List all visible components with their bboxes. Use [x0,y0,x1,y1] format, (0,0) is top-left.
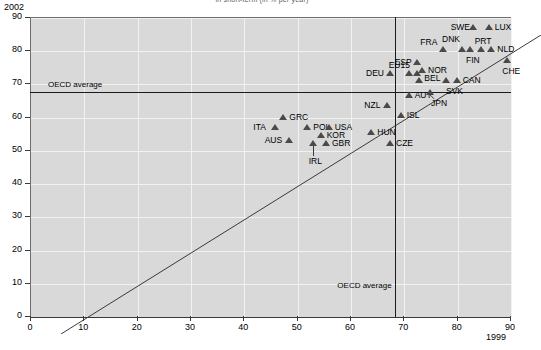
data-point-marker [386,140,394,146]
gridline-vertical [351,18,352,317]
oecd-average-label-horizontal: OECD average [48,80,102,89]
y-axis-tick [25,50,30,51]
x-axis-tick [30,316,31,321]
x-axis-tick-label: 20 [122,323,152,332]
data-point-marker [397,112,405,118]
data-point-marker [413,59,421,65]
x-axis-tick [297,316,298,321]
data-point-label: IRL [309,157,322,166]
data-point-label: ISL [407,111,420,120]
data-point-marker [487,46,495,52]
x-axis-tick-label: 10 [68,323,98,332]
y-axis-tick [25,183,30,184]
x-axis-tick-label: 40 [228,323,258,332]
x-axis-tick-label: 0 [15,323,45,332]
gridline-horizontal [31,284,511,285]
data-point-label: HUN [377,128,395,137]
data-point-marker [279,114,287,120]
data-point-marker [426,89,434,95]
data-point-label: JPN [431,99,447,108]
data-point-marker [439,46,447,52]
data-point-label: NLD [497,45,514,54]
plot-area [30,17,511,318]
y-axis-tick [25,117,30,118]
gridline-vertical [191,18,192,317]
gridline-horizontal [31,184,511,185]
x-axis-tick [457,316,458,321]
data-point-marker [317,132,325,138]
y-axis-tick [25,250,30,251]
y-axis-tick-label: 70 [0,78,22,87]
x-axis-tick-label: 30 [175,323,205,332]
x-axis-tick-label: 80 [442,323,472,332]
data-point-marker [466,46,474,52]
data-point-marker [322,140,330,146]
gridline-vertical [458,18,459,317]
x-axis-tick [350,316,351,321]
data-point-label: SWE [451,23,470,32]
gridline-horizontal [31,18,511,19]
x-axis-tick [403,316,404,321]
gridline-horizontal [31,84,511,85]
data-point-marker [458,46,466,52]
data-point-marker [418,67,426,73]
x-axis-tick-label: 90 [495,323,525,332]
gridline-vertical [244,18,245,317]
gridline-horizontal [31,217,511,218]
data-point-label: AUS [265,136,282,145]
data-point-label: NZL [364,101,380,110]
data-point-label: BEL [424,74,440,83]
data-point-marker [485,24,493,30]
y-axis-tick [25,17,30,18]
oecd-average-horizontal [30,92,511,93]
data-point-marker [386,70,394,76]
data-point-marker [367,129,375,135]
y-axis-tick-label: 60 [0,112,22,121]
data-point-label: GBR [332,139,350,148]
chart-title: in short-term (in % per year) [0,0,524,4]
gridline-horizontal [31,151,511,152]
data-point-marker [442,77,450,83]
data-point-label: NOR [428,66,447,75]
data-point-marker [303,124,311,130]
x-axis-tick-label: 60 [335,323,365,332]
gridline-vertical [298,18,299,317]
gridline-vertical [84,18,85,317]
data-point-label: SVK [446,87,463,96]
data-point-marker [415,77,423,83]
x-axis-tick-label: 50 [282,323,312,332]
data-point-label: CHE [502,67,520,76]
y-axis-tick [25,283,30,284]
data-point-label: PRT [475,37,492,46]
data-point-marker [285,137,293,143]
data-point-label: ITA [253,123,266,132]
y-axis-tick [25,150,30,151]
data-point-label: CAN [463,76,481,85]
gridline-horizontal [31,251,511,252]
gridline-horizontal [31,118,511,119]
y-axis-tick-label: 30 [0,211,22,220]
y-axis-tick-label: 80 [0,45,22,54]
y-axis-tick-label: 90 [0,12,22,21]
x-axis-tick [137,316,138,321]
data-point-label: USA [335,123,352,132]
data-point-marker [405,92,413,98]
data-point-marker [383,102,391,108]
y-axis-tick-label: 50 [0,145,22,154]
y-axis-tick-label: 20 [0,245,22,254]
gridline-vertical [138,18,139,317]
data-point-label: DEU [366,69,384,78]
data-point-label: FRA [420,38,437,47]
x-axis-tick [243,316,244,321]
data-point-label: CZE [396,139,413,148]
data-point-label: FIN [466,56,480,65]
oecd-average-label-vertical: OECD average [337,281,391,290]
leader-line-irl [313,146,314,156]
y-axis-tick [25,216,30,217]
data-point-marker [325,124,333,130]
y-axis-tick-label: 40 [0,178,22,187]
x-axis-tick-label: 70 [388,323,418,332]
data-point-marker [453,77,461,83]
x-axis-tick [510,316,511,321]
